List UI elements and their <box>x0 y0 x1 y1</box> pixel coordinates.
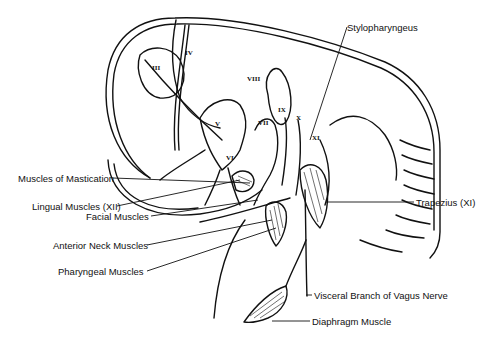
trapezius-muscle <box>300 165 328 228</box>
numeral-v: V <box>215 120 220 128</box>
label-diaphragm-muscle: Diaphragm Muscle <box>312 316 391 327</box>
label-facial-muscles: Facial Muscles <box>86 211 149 222</box>
facial-nerve <box>254 119 278 205</box>
otic-vesicle <box>266 69 290 125</box>
diagram-canvas: IV III V VII VIII IX X XI VI Stylopharyn… <box>0 0 478 341</box>
label-visceral-branch-vagus: Visceral Branch of Vagus Nerve <box>314 290 448 301</box>
numeral-vi: VI <box>226 154 234 162</box>
label-stylopharyngeus: Stylopharyngeus <box>347 22 418 33</box>
numeral-iv: IV <box>185 49 193 57</box>
label-anterior-neck-muscles: Anterior Neck Muscles <box>53 240 148 251</box>
numeral-viii: VIII <box>247 75 261 83</box>
numeral-vii: VII <box>258 119 269 127</box>
label-trapezius: Trapezius (XI) <box>416 197 475 208</box>
numeral-iii: III <box>152 64 160 72</box>
numeral-x: X <box>296 114 301 122</box>
trigeminal-ganglion <box>200 100 246 170</box>
embryo-outline <box>106 18 440 258</box>
numeral-ix: IX <box>278 106 286 114</box>
numeral-xi: XI <box>312 134 320 142</box>
label-pharyngeal-muscles: Pharyngeal Muscles <box>58 266 144 277</box>
label-muscles-of-mastication: Muscles of Mastication <box>18 173 114 184</box>
